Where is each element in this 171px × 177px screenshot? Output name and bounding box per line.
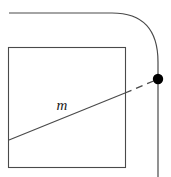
rounded-corner-path <box>9 13 158 177</box>
intersection-point <box>153 74 163 84</box>
geometry-diagram: m <box>0 0 171 177</box>
figure-canvas: m <box>0 0 171 177</box>
label-m: m <box>57 97 68 113</box>
line-m-dashed-extension <box>125 80 156 93</box>
